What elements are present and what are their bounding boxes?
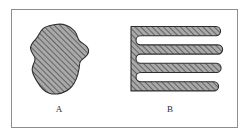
shape-b-label: B <box>160 104 180 114</box>
figure-container: A B <box>0 0 249 136</box>
figure-drawing-canvas <box>0 0 249 136</box>
shape-a-label: A <box>49 104 69 114</box>
shape-b-serpentine <box>131 27 223 91</box>
shape-a-blob <box>31 24 89 94</box>
